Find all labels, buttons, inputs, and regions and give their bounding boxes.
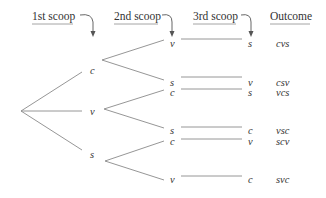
header-1st-scoop: 1st scoop (32, 10, 75, 23)
outcome-scv: scv (276, 136, 290, 147)
outcome-svc: svc (276, 174, 290, 185)
node-1st-c: c (90, 65, 95, 76)
node-3rd-s: s (248, 87, 252, 98)
header-3rd-scoop: 3rd scoop (193, 10, 238, 23)
node-3rd-s: s (248, 38, 252, 49)
node-2nd-c: c (170, 87, 175, 98)
edge-c-s (102, 60, 164, 80)
arrow-2nd-to-3rd-icon (162, 15, 175, 37)
node-3rd-c: c (248, 125, 253, 136)
edge-v-s (104, 109, 164, 128)
edge-s-v (105, 161, 164, 180)
arrow-1st-to-2nd-icon (80, 15, 96, 37)
header-2nd-scoop: 2nd scoop (114, 10, 161, 23)
outcome-vcs: vcs (276, 87, 289, 98)
edge-root-s (21, 111, 82, 150)
node-2nd-c: c (170, 136, 175, 147)
node-2nd-v: v (170, 174, 175, 185)
tree-diagram: 1st scoop 2nd scoop 3rd scoop Outcome c … (0, 0, 326, 198)
edge-c-v (102, 40, 164, 60)
edge-s-c (105, 141, 164, 161)
edge-root-c (21, 72, 82, 111)
arrow-3rd-to-outcome-icon (241, 15, 254, 37)
node-3rd-v: v (248, 136, 253, 147)
node-1st-v: v (90, 106, 95, 117)
node-2nd-s: s (170, 125, 174, 136)
node-1st-s: s (90, 149, 94, 160)
edge-v-c (104, 90, 164, 109)
header-outcome: Outcome (270, 10, 312, 22)
node-2nd-v: v (170, 38, 175, 49)
node-3rd-c: c (248, 174, 253, 185)
outcome-vsc: vsc (276, 125, 290, 136)
outcome-cvs: cvs (276, 38, 289, 49)
